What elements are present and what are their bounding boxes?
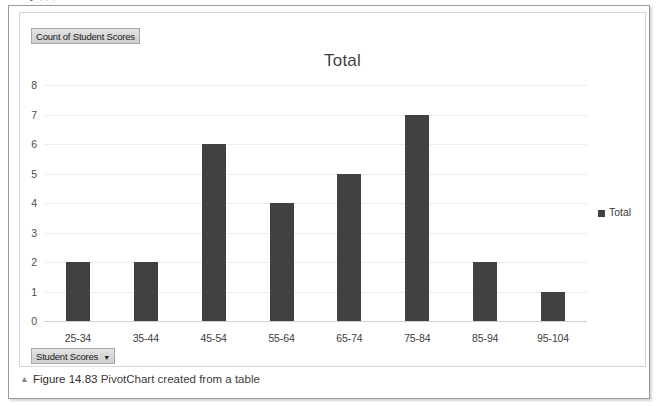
gridline xyxy=(44,321,587,322)
x-axis-category-label: 75-84 xyxy=(404,332,430,344)
bar[interactable] xyxy=(337,174,361,322)
x-axis-category-label: 85-94 xyxy=(472,332,498,344)
y-axis-tick-label: 6 xyxy=(31,138,37,150)
bar[interactable] xyxy=(202,144,226,321)
bar-category-slot: 55-64 xyxy=(248,85,316,321)
x-axis-category-label: 65-74 xyxy=(336,332,362,344)
y-axis-tick-label: 2 xyxy=(31,256,37,268)
chart-title: Total xyxy=(20,51,647,71)
legend-label-total: Total xyxy=(609,206,631,218)
bar[interactable] xyxy=(473,262,497,321)
figure-caption-text: PivotChart created from a table xyxy=(101,373,260,385)
legend-swatch-total xyxy=(598,210,605,217)
figure-caption: ▲Figure 14.83 PivotChart created from a … xyxy=(20,373,260,385)
chevron-down-icon[interactable]: ▼ xyxy=(103,351,110,364)
triangle-up-icon: ▲ xyxy=(20,374,29,384)
bar-category-slot: 45-54 xyxy=(180,85,248,321)
figure-number: Figure 14.83 xyxy=(33,373,98,385)
x-axis-category-label: 35-44 xyxy=(133,332,159,344)
chart-legend[interactable]: Total xyxy=(598,206,631,218)
x-axis-category-label: 55-64 xyxy=(268,332,294,344)
x-axis-category-label: 25-34 xyxy=(65,332,91,344)
pivot-axis-field-button[interactable]: Student Scores▼ xyxy=(31,348,115,364)
y-axis-tick-label: 5 xyxy=(31,168,37,180)
bar[interactable] xyxy=(66,262,90,321)
document-frame: Count of Student Scores Total 012345678 … xyxy=(8,5,650,399)
bar[interactable] xyxy=(541,292,565,322)
plot-area: 012345678 25-3435-4445-5455-6465-7475-84… xyxy=(44,85,587,321)
bar[interactable] xyxy=(134,262,158,321)
clipped-text-line: y , , , xyxy=(30,0,56,1)
x-axis-category-label: 45-54 xyxy=(201,332,227,344)
y-axis-tick-label: 0 xyxy=(31,315,37,327)
bar-category-slot: 75-84 xyxy=(383,85,451,321)
bar-category-slot: 65-74 xyxy=(316,85,384,321)
y-axis-tick-label: 4 xyxy=(31,197,37,209)
y-axis-tick-label: 1 xyxy=(31,286,37,298)
pivotchart-panel[interactable]: Count of Student Scores Total 012345678 … xyxy=(19,12,646,367)
bar[interactable] xyxy=(270,203,294,321)
bar-category-slot: 95-104 xyxy=(519,85,587,321)
pivot-value-field-label: Count of Student Scores xyxy=(36,31,135,42)
y-axis-tick-label: 7 xyxy=(31,109,37,121)
y-axis-tick-label: 3 xyxy=(31,227,37,239)
bar-category-slot: 35-44 xyxy=(112,85,180,321)
bar-category-slot: 85-94 xyxy=(451,85,519,321)
pivot-axis-field-label: Student Scores xyxy=(36,351,98,362)
x-axis-category-label: 95-104 xyxy=(537,332,569,344)
y-axis-tick-label: 8 xyxy=(31,79,37,91)
bar-series-total[interactable]: 25-3435-4445-5455-6465-7475-8485-9495-10… xyxy=(44,85,587,321)
document-page: y , , , Count of Student Scores Total 01… xyxy=(0,0,656,406)
bar[interactable] xyxy=(405,115,429,322)
pivot-value-field-button[interactable]: Count of Student Scores xyxy=(31,28,140,44)
bar-category-slot: 25-34 xyxy=(44,85,112,321)
